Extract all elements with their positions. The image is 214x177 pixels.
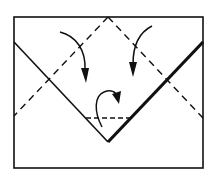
origami-diagram bbox=[0, 0, 214, 177]
paper-outline bbox=[14, 17, 203, 168]
diagram-svg bbox=[0, 0, 214, 177]
